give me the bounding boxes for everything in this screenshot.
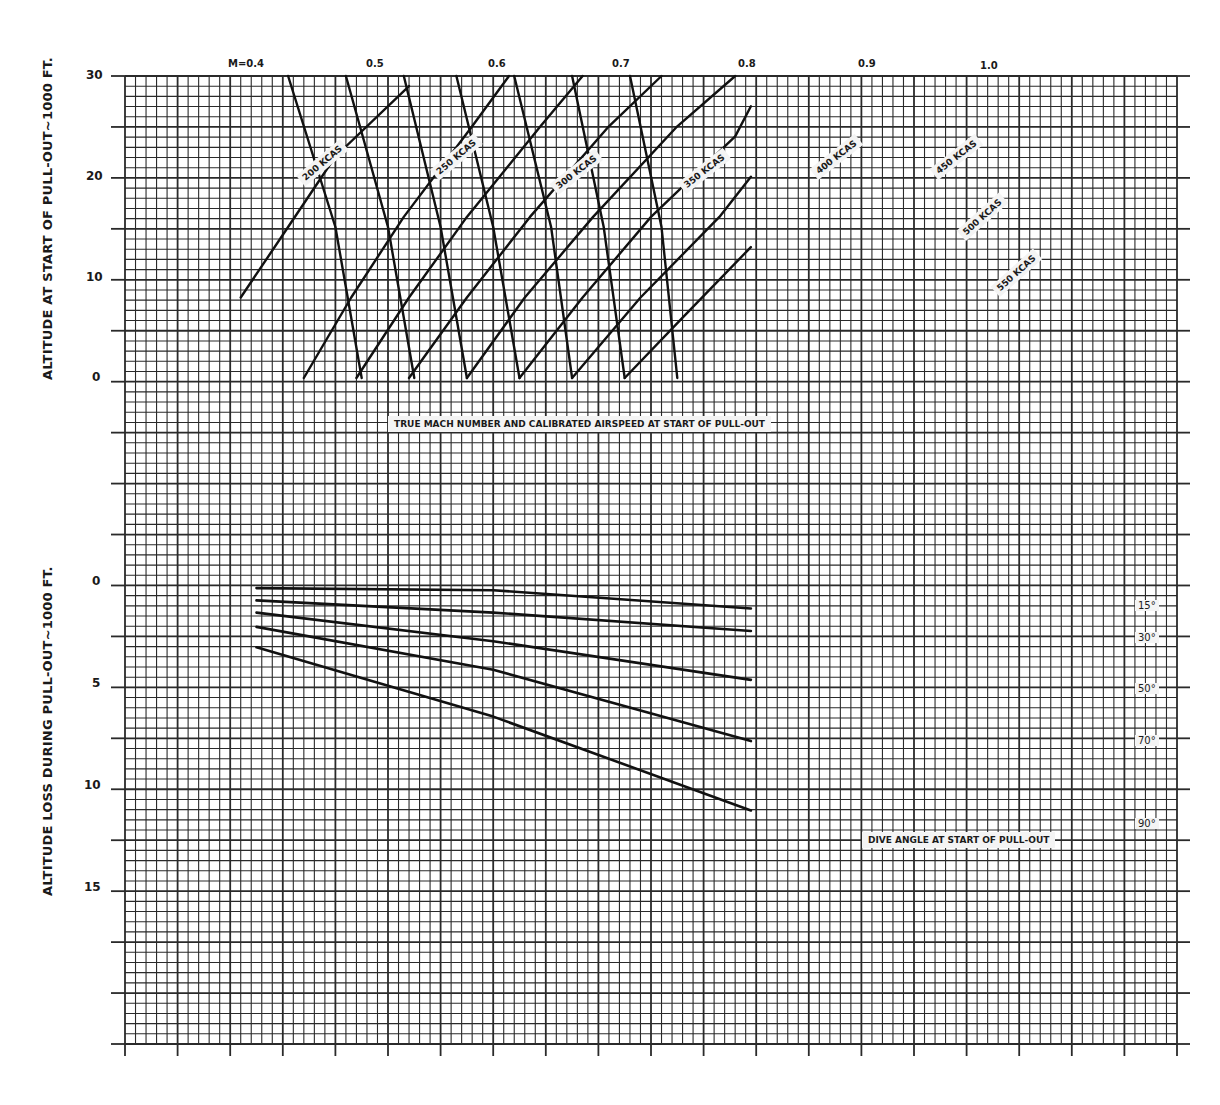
angle-label-90: 90° [1135,818,1159,829]
upper-tick-30: 30 [86,68,103,82]
mach-label-0-6: 0.6 [488,58,506,69]
upper-tick-10: 10 [86,270,103,284]
upper-tick-0: 0 [92,370,100,384]
upper-tick-20: 20 [86,169,103,183]
pull-out-chart [0,0,1220,1105]
angle-label-15: 15° [1135,600,1159,611]
chart-grid [111,76,1190,1056]
upper-y-axis-title: ALTITUDE AT START OF PULL-OUT~1000 FT. [40,57,55,380]
lower-y-axis-title: ALTITUDE LOSS DURING PULL-OUT~1000 FT. [40,566,55,896]
lower-tick-0: 0 [92,574,100,588]
mach-label-0-7: 0.7 [612,58,630,69]
lower-tick-5: 5 [92,676,100,690]
lower-tick-10: 10 [84,778,101,792]
angle-label-30: 30° [1135,632,1159,643]
angle-label-70: 70° [1135,735,1159,746]
mach-label-0-5: 0.5 [366,58,384,69]
mach-label-1-0: 1.0 [980,60,998,71]
mach-label-0-4: M=0.4 [228,58,264,69]
mach-label-0-9: 0.9 [858,58,876,69]
upper-x-axis-title: TRUE MACH NUMBER AND CALIBRATED AIRSPEED… [388,416,771,432]
lower-tick-15: 15 [84,880,101,894]
angle-label-50: 50° [1135,683,1159,694]
mach-label-0-8: 0.8 [738,58,756,69]
lower-x-axis-title: DIVE ANGLE AT START OF PULL-OUT [862,832,1055,848]
